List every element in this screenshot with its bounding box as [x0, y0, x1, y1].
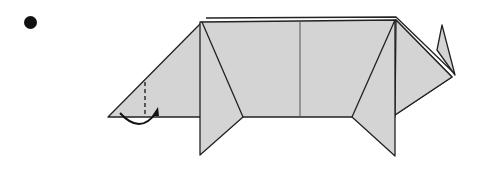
- origami-pig-diagram: [0, 0, 479, 169]
